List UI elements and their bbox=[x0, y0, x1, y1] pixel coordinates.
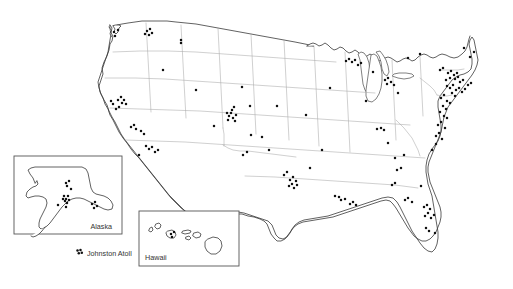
site-marker bbox=[295, 180, 298, 183]
site-marker bbox=[425, 227, 428, 230]
site-marker bbox=[125, 103, 128, 106]
site-marker bbox=[396, 169, 399, 172]
site-marker bbox=[449, 87, 452, 90]
great-lakes-group bbox=[358, 51, 414, 102]
site-marker bbox=[151, 32, 154, 35]
site-marker bbox=[180, 42, 183, 45]
site-marker bbox=[250, 134, 253, 137]
site-marker bbox=[454, 95, 457, 98]
site-marker bbox=[469, 56, 472, 59]
site-marker bbox=[235, 114, 238, 117]
hawaii-island-hawaii bbox=[205, 237, 222, 254]
site-marker bbox=[376, 128, 379, 131]
site-marker bbox=[130, 126, 133, 129]
site-marker bbox=[470, 82, 473, 85]
site-marker bbox=[431, 149, 434, 152]
alaska-label: Alaska bbox=[90, 222, 112, 231]
site-marker bbox=[453, 74, 456, 77]
site-marker bbox=[430, 217, 433, 220]
site-marker bbox=[151, 146, 154, 149]
site-marker bbox=[242, 154, 245, 157]
johnston-atoll-group: Johnston Atoll bbox=[76, 249, 132, 258]
site-marker bbox=[345, 60, 348, 63]
site-marker bbox=[195, 89, 198, 92]
site-marker-hawaii bbox=[170, 233, 173, 236]
site-marker bbox=[456, 72, 459, 75]
state-border-horizontal-3 bbox=[110, 108, 410, 125]
site-marker-alaska bbox=[94, 201, 97, 204]
site-marker bbox=[390, 81, 393, 84]
site-marker bbox=[112, 103, 115, 106]
site-marker bbox=[387, 142, 390, 145]
site-marker bbox=[463, 47, 466, 50]
site-marker bbox=[305, 114, 308, 117]
site-marker bbox=[445, 79, 448, 82]
site-marker bbox=[454, 78, 457, 81]
site-marker bbox=[140, 130, 143, 133]
site-marker-hawaii bbox=[171, 236, 174, 239]
site-marker bbox=[143, 133, 146, 136]
site-marker bbox=[455, 89, 458, 92]
site-marker bbox=[233, 106, 236, 109]
state-border-texas-nm bbox=[223, 128, 224, 146]
site-marker bbox=[352, 201, 355, 204]
site-marker bbox=[145, 145, 148, 148]
site-marker-alaska bbox=[68, 180, 71, 183]
site-marker-johnston bbox=[79, 249, 82, 252]
site-marker bbox=[473, 51, 476, 54]
site-marker-alaska bbox=[91, 203, 94, 206]
site-marker bbox=[439, 111, 442, 114]
site-marker bbox=[288, 185, 291, 188]
site-marker bbox=[433, 214, 436, 217]
map-canvas: Alaska Hawaii Johnston Atoll bbox=[0, 0, 513, 289]
site-marker bbox=[344, 198, 347, 201]
site-marker bbox=[241, 86, 244, 89]
site-marker bbox=[286, 171, 289, 174]
site-marker bbox=[157, 149, 160, 152]
site-marker bbox=[329, 87, 332, 90]
site-marker bbox=[394, 157, 397, 160]
site-marker-alaska bbox=[57, 204, 60, 207]
site-marker bbox=[309, 167, 312, 170]
site-marker-alaska bbox=[66, 202, 69, 205]
site-marker bbox=[180, 39, 183, 42]
hawaii-island-maui bbox=[193, 232, 201, 238]
site-marker bbox=[123, 99, 126, 102]
us-map-figure: Alaska Hawaii Johnston Atoll bbox=[0, 0, 513, 289]
state-border-vertical-3 bbox=[218, 28, 223, 128]
site-marker bbox=[117, 99, 120, 102]
site-marker bbox=[355, 204, 358, 207]
site-marker-alaska bbox=[65, 206, 68, 209]
site-marker bbox=[372, 71, 375, 74]
site-marker bbox=[438, 132, 441, 135]
site-marker-hawaii bbox=[173, 231, 176, 234]
site-marker bbox=[449, 77, 452, 80]
site-marker bbox=[426, 204, 429, 207]
site-marker bbox=[435, 143, 438, 146]
site-marker bbox=[407, 197, 410, 200]
site-marker bbox=[452, 84, 455, 87]
site-marker bbox=[351, 61, 354, 64]
site-marker bbox=[114, 35, 117, 38]
site-marker bbox=[387, 77, 390, 80]
site-marker bbox=[365, 100, 368, 103]
site-marker bbox=[419, 53, 422, 56]
site-marker bbox=[424, 215, 427, 218]
site-marker bbox=[442, 105, 445, 108]
site-marker bbox=[144, 33, 147, 36]
johnston-atoll-label: Johnston Atoll bbox=[87, 249, 132, 258]
site-marker bbox=[228, 115, 231, 118]
site-marker-alaska bbox=[63, 195, 66, 198]
state-border-ne-1 bbox=[420, 78, 437, 95]
site-marker bbox=[442, 67, 445, 70]
site-marker bbox=[296, 184, 299, 187]
site-marker bbox=[403, 154, 406, 157]
site-marker-alaska bbox=[67, 195, 70, 198]
site-marker bbox=[429, 208, 432, 211]
site-marker bbox=[133, 124, 136, 127]
site-marker bbox=[445, 108, 448, 111]
site-marker bbox=[427, 212, 430, 215]
site-marker bbox=[138, 154, 141, 157]
site-marker bbox=[293, 187, 296, 190]
site-marker bbox=[400, 167, 403, 170]
